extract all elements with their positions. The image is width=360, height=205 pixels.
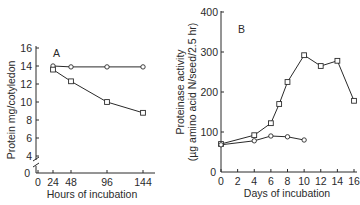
x-axis-title: Hours of incubation	[47, 188, 138, 200]
square-marker	[51, 67, 56, 72]
panel-label: A	[53, 47, 60, 59]
square-marker	[252, 133, 257, 138]
x-axis-title: Days of incubation	[244, 187, 331, 199]
chart-b: 01002003004000246810121416Days of incuba…	[174, 6, 360, 199]
square-marker	[277, 102, 282, 107]
y-axis-title-line2: (µg amino acid N/seed/2.5 hr)	[186, 23, 198, 162]
y-tick-label: 12	[20, 78, 32, 90]
y-tick-label: 100	[200, 126, 218, 138]
y-tick-label: 400	[200, 6, 218, 18]
x-tick-label: 2	[235, 175, 241, 187]
y-tick-label: 14	[20, 60, 32, 72]
square-marker	[335, 58, 340, 63]
x-tick-label: 0	[218, 175, 224, 187]
y-tick-label: 10	[20, 96, 32, 108]
y-tick-label: 6	[26, 132, 32, 144]
circle-marker	[285, 135, 289, 139]
y-tick-label: 200	[200, 86, 218, 98]
circle-marker	[105, 65, 109, 69]
series-line-squares	[221, 55, 354, 144]
y-tick-label: 16	[20, 42, 32, 54]
circle-marker	[269, 134, 273, 138]
circle-marker	[219, 143, 223, 147]
x-tick-label: 144	[134, 176, 152, 188]
x-tick-label: 10	[298, 175, 310, 187]
x-tick-label: 6	[268, 175, 274, 187]
figure: 0468101214160244896144Hours of incubatio…	[0, 0, 360, 205]
square-marker	[302, 53, 307, 58]
x-tick-label: 96	[101, 176, 113, 188]
square-marker	[268, 121, 273, 126]
x-tick-label: 0	[35, 176, 41, 188]
series-line-squares	[53, 70, 143, 113]
y-tick-label: 4	[26, 150, 32, 162]
panel-label: B	[238, 23, 245, 35]
square-marker	[285, 80, 290, 85]
series-line-circles	[53, 66, 143, 67]
x-tick-label: 16	[348, 175, 360, 187]
square-marker	[69, 79, 74, 84]
x-tick-label: 24	[47, 176, 59, 188]
y-tick-label: 0	[210, 166, 216, 178]
square-marker	[105, 100, 110, 105]
x-tick-label: 48	[65, 176, 77, 188]
circle-marker	[141, 65, 145, 69]
square-marker	[318, 64, 323, 69]
circle-marker	[69, 65, 73, 69]
circle-marker	[252, 139, 256, 143]
y-tick-label: 8	[26, 114, 32, 126]
x-tick-label: 12	[315, 175, 327, 187]
square-marker	[352, 98, 357, 103]
x-tick-label: 14	[332, 175, 344, 187]
chart-a: 0468101214160244896144Hours of incubatio…	[5, 42, 155, 200]
y-axis-title-line1: Proteinase activity	[174, 49, 186, 135]
x-tick-label: 4	[251, 175, 257, 187]
y-axis-title: Protein mg/cotyledon	[5, 61, 17, 160]
circle-marker	[302, 138, 306, 142]
y-tick-label: 300	[200, 46, 218, 58]
y-tick-label: 0	[24, 167, 30, 179]
square-marker	[141, 110, 146, 115]
x-tick-label: 8	[285, 175, 291, 187]
